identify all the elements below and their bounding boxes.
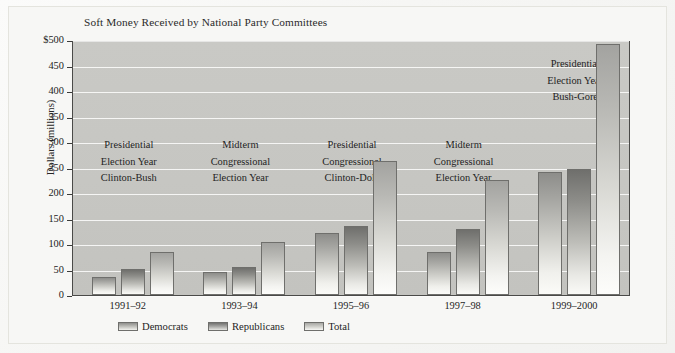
y-axis-tick-label: 450	[20, 60, 64, 71]
annotation-line: Congressional	[408, 154, 520, 171]
chart-title: Soft Money Received by National Party Co…	[84, 16, 327, 28]
legend-swatch-dem	[118, 322, 138, 331]
bar-rep	[567, 169, 591, 295]
annotation-line: Midterm	[408, 137, 520, 154]
figure-container: Soft Money Received by National Party Co…	[0, 0, 675, 353]
bar-rep	[121, 269, 145, 295]
plot-area: PresidentialElection YearClinton-BushMid…	[72, 41, 630, 296]
group-annotation: MidtermCongressionalElection Year	[408, 137, 520, 187]
legend-swatch-total	[304, 322, 324, 331]
y-axis-tick-label: 300	[20, 136, 64, 147]
y-axis-tick-label: 400	[20, 85, 64, 96]
bar-total	[150, 252, 174, 295]
gridline	[73, 41, 629, 42]
annotation-line: Clinton-Bush	[73, 170, 185, 187]
x-axis-tick-label: 1991–92	[72, 300, 184, 311]
annotation-line: Presidential	[296, 137, 408, 154]
y-axis-tick-label: 100	[20, 238, 64, 249]
bar-total	[373, 161, 397, 295]
annotation-line: Presidential	[73, 137, 185, 154]
legend-label: Republicans	[232, 321, 284, 332]
bar-total	[261, 242, 285, 295]
legend-item: Republicans	[208, 321, 284, 332]
gridline	[73, 118, 629, 119]
y-axis-tick-label: 350	[20, 111, 64, 122]
y-axis-tick-label: $500	[20, 34, 64, 45]
legend-label: Democrats	[142, 321, 188, 332]
bar-total	[596, 44, 620, 295]
annotation-line: Election Year	[73, 154, 185, 171]
annotation-line: Congressional	[185, 154, 297, 171]
x-axis-tick-label: 1997–98	[407, 300, 519, 311]
annotation-line: Midterm	[185, 137, 297, 154]
bar-dem	[315, 233, 339, 295]
annotation-line: Election Year	[185, 170, 297, 187]
legend-item: Democrats	[118, 321, 188, 332]
x-axis-tick-label: 1993–94	[184, 300, 296, 311]
bar-rep	[344, 226, 368, 295]
bar-dem	[538, 172, 562, 295]
y-axis-tick-label: 150	[20, 213, 64, 224]
bar-rep	[456, 229, 480, 295]
legend-label: Total	[328, 321, 350, 332]
y-axis-tick-mark	[67, 296, 72, 297]
bar-total	[485, 180, 509, 295]
bar-rep	[232, 267, 256, 295]
legend-swatch-rep	[208, 322, 228, 331]
bar-dem	[203, 272, 227, 295]
y-axis-tick-label: 0	[20, 289, 64, 300]
group-annotation: PresidentialElection YearClinton-Bush	[73, 137, 185, 187]
x-axis-tick-label: 1999–2000	[518, 300, 630, 311]
group-annotation: MidtermCongressionalElection Year	[185, 137, 297, 187]
bar-dem	[427, 252, 451, 295]
x-axis-tick-label: 1995–96	[295, 300, 407, 311]
y-axis-tick-label: 50	[20, 264, 64, 275]
bar-dem	[92, 277, 116, 295]
legend-item: Total	[304, 321, 350, 332]
chart-legend: DemocratsRepublicansTotal	[118, 321, 350, 332]
y-axis-tick-label: 250	[20, 162, 64, 173]
gridline	[73, 296, 629, 297]
y-axis-tick-label: 200	[20, 187, 64, 198]
